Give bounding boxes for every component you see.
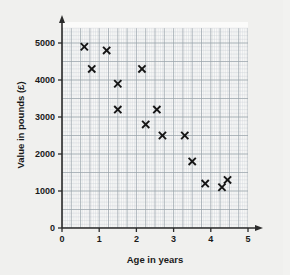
x-tick-label: 4 — [208, 234, 213, 244]
y-axis-ticks: 010002000300040005000 — [35, 38, 62, 233]
y-tick-label: 0 — [50, 223, 55, 233]
x-tick-label: 5 — [245, 234, 250, 244]
y-tick-label: 2000 — [35, 149, 55, 159]
x-tick-label: 0 — [59, 234, 64, 244]
y-tick-label: 3000 — [35, 112, 55, 122]
y-tick-label: 5000 — [35, 38, 55, 48]
x-tick-label: 2 — [134, 234, 139, 244]
x-axis-arrowhead — [255, 225, 263, 231]
screenshot-root: 012345 010002000300040005000 Age in year… — [0, 0, 290, 275]
chart-svg: 012345 010002000300040005000 Age in year… — [0, 0, 290, 275]
scatter-chart: 012345 010002000300040005000 Age in year… — [0, 0, 290, 275]
x-tick-label: 1 — [97, 234, 102, 244]
y-axis-title: Value in pounds (£) — [15, 81, 26, 168]
x-axis-title: Age in years — [127, 254, 184, 265]
y-tick-label: 1000 — [35, 186, 55, 196]
x-axis-ticks: 012345 — [59, 228, 250, 244]
y-axis-arrowhead — [59, 15, 65, 23]
x-tick-label: 3 — [171, 234, 176, 244]
y-tick-label: 4000 — [35, 75, 55, 85]
